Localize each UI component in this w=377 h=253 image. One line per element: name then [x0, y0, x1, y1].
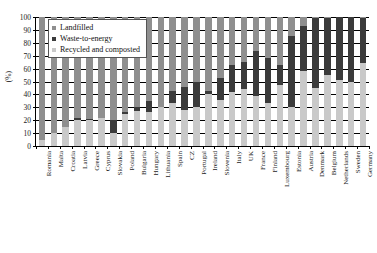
- x-axis-tick: [203, 146, 204, 149]
- legend-swatch-waste-to-energy-icon: [52, 37, 56, 41]
- bar-segment-wte: [253, 51, 260, 96]
- bar-segment-lf: [288, 17, 295, 36]
- x-axis-tick: [60, 146, 61, 149]
- bar-segment-rec: [39, 140, 46, 146]
- bar-column: [300, 17, 307, 146]
- x-axis-tick-label: Sweden: [354, 151, 362, 173]
- bar-segment-lf: [360, 17, 367, 18]
- bar-segment-rec: [193, 107, 200, 146]
- bar-column: [360, 17, 367, 146]
- x-axis-tick-label: Romania: [45, 151, 53, 176]
- bar-segment-rec: [181, 110, 188, 146]
- bar-segment-lf: [217, 17, 224, 78]
- bar-segment-lf: [229, 17, 236, 65]
- bar-segment-wte: [217, 78, 224, 100]
- bar-segment-rec: [110, 133, 117, 146]
- x-axis-tick: [238, 146, 239, 149]
- x-axis-tick-label: Germany: [366, 151, 374, 177]
- y-axis-tick-label: 50: [24, 77, 32, 86]
- x-axis-tick-label: Greece: [93, 151, 101, 171]
- bar-segment-lf: [193, 17, 200, 82]
- bar-column: [181, 17, 188, 146]
- x-axis-tick-label: Slovenia: [223, 151, 231, 176]
- x-axis-tick: [214, 146, 215, 149]
- x-axis-tick-label: Ireland: [211, 151, 219, 171]
- y-axis-tick-label: 20: [24, 116, 32, 125]
- bar-segment-lf: [158, 17, 165, 107]
- x-axis-tick: [321, 146, 322, 149]
- bar-segment-lf: [169, 17, 176, 91]
- bar-segment-lf: [241, 17, 248, 62]
- bar-segment-rec: [86, 120, 93, 146]
- y-axis-tick-label: 60: [24, 64, 32, 73]
- bar-segment-rec: [324, 75, 331, 146]
- bar-column: [241, 17, 248, 146]
- bar-segment-wte: [312, 18, 319, 88]
- y-axis-tick-label: 0: [27, 142, 31, 151]
- x-axis-tick-label: Belgium: [330, 151, 338, 175]
- x-axis-tick-label: Spain: [176, 151, 184, 167]
- bar-segment-rec: [253, 96, 260, 146]
- x-axis-tick: [36, 146, 37, 149]
- bar-segment-wte: [324, 18, 331, 75]
- bar-segment-rec: [277, 85, 284, 146]
- bar-column: [39, 17, 46, 146]
- legend-swatch-recycled-composted-icon: [52, 48, 56, 52]
- bar-segment-wte: [205, 91, 212, 95]
- x-axis-tick-label: France: [259, 151, 267, 170]
- x-axis-tick-label: Croatia: [69, 151, 77, 172]
- bar-segment-lf: [277, 17, 284, 65]
- bar-segment-lf: [312, 17, 319, 18]
- bar-segment-rec: [74, 120, 81, 146]
- bar-segment-wte: [336, 17, 343, 80]
- x-axis-tick-label: Lithuania: [164, 151, 172, 178]
- bar-column: [312, 17, 319, 146]
- x-axis-tick: [179, 146, 180, 149]
- x-axis-tick-label: Italy: [235, 151, 243, 164]
- bar-segment-rec: [265, 103, 272, 146]
- chart-figure: (%) 0102030405060708090100 RomaniaMaltaC…: [0, 0, 377, 253]
- x-axis-tick: [119, 146, 120, 149]
- bar-segment-wte: [360, 18, 367, 63]
- bar-column: [169, 17, 176, 146]
- x-axis-tick-label: Cyprus: [104, 151, 112, 171]
- legend-item-landfilled: Landfilled: [52, 22, 140, 33]
- bar-segment-wte: [134, 107, 141, 111]
- bar-segment-wte: [122, 112, 129, 113]
- bar-column: [205, 17, 212, 146]
- x-axis-tick-label: Latvia: [81, 151, 89, 169]
- bar-segment-lf: [181, 17, 188, 87]
- bar-segment-wte: [146, 101, 153, 113]
- bar-segment-wte: [193, 82, 200, 108]
- y-axis-tick-label: 90: [24, 25, 32, 34]
- bar-segment-wte: [348, 17, 355, 82]
- y-axis-tick-label: 30: [24, 103, 32, 112]
- bar-segment-wte: [110, 120, 117, 133]
- bar-segment-rec: [229, 92, 236, 146]
- x-axis-tick-label: Luxembourg: [283, 151, 291, 187]
- bar-segment-rec: [51, 133, 58, 146]
- bar-column: [193, 17, 200, 146]
- bar-column: [288, 17, 295, 146]
- bar-segment-lf: [324, 17, 331, 18]
- x-axis-tick: [226, 146, 227, 149]
- bar-segment-lf: [265, 17, 272, 58]
- x-axis-tick: [95, 146, 96, 149]
- legend-swatch-landfilled-icon: [52, 26, 56, 30]
- bar-column: [277, 17, 284, 146]
- x-axis-tick: [72, 146, 73, 149]
- x-axis-tick-label: Denmark: [318, 151, 326, 177]
- bar-column: [336, 17, 343, 146]
- x-axis-tick: [250, 146, 251, 149]
- bar-segment-wte: [181, 87, 188, 110]
- x-axis-tick: [155, 146, 156, 149]
- bar-segment-lf: [39, 17, 46, 140]
- y-axis-tick-label: 10: [24, 129, 32, 138]
- y-axis-tick-label: 80: [24, 38, 32, 47]
- x-axis-tick: [310, 146, 311, 149]
- bar-segment-rec: [134, 111, 141, 146]
- bar-segment-rec: [241, 89, 248, 146]
- x-axis-tick: [298, 146, 299, 149]
- bar-segment-rec: [158, 107, 165, 146]
- bar-column: [217, 17, 224, 146]
